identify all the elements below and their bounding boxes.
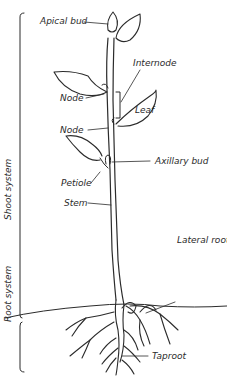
shoot-system-bracket (20, 13, 24, 318)
label-taproot: Taproot (152, 351, 186, 361)
apical-bud (108, 12, 118, 32)
label-root-system: Root system (3, 266, 13, 322)
label-apical-bud: Apical bud (40, 16, 87, 26)
root-system (66, 300, 178, 375)
label-lateral-root: Lateral root (177, 235, 227, 245)
petiole (100, 158, 108, 168)
plant-drawing (0, 0, 227, 380)
label-node-upper: Node (60, 93, 84, 103)
lower-left-leaf (66, 136, 102, 161)
leader-lateral-root (146, 302, 175, 313)
leader-apical-bud (84, 22, 108, 24)
root-system-bracket (20, 322, 24, 372)
upper-left-leaf (54, 72, 107, 96)
label-axillary-bud: Axillary bud (155, 156, 209, 166)
plant-diagram: Apical bud Internode Node Leaf Node Axil… (0, 0, 227, 380)
top-leaf (116, 14, 140, 42)
leader-internode (121, 70, 140, 102)
label-internode: Internode (133, 58, 177, 68)
leader-stem (88, 203, 111, 205)
label-petiole: Petiole (61, 178, 92, 188)
leader-petiole (91, 172, 100, 183)
label-shoot-system: Shoot system (3, 159, 13, 220)
label-leaf: Leaf (135, 105, 154, 115)
label-stem: Stem (64, 198, 88, 208)
internode-marker (116, 92, 120, 118)
label-node-lower: Node (60, 125, 84, 135)
leader-axillary-bud (112, 161, 150, 162)
leader-node-lower (88, 128, 108, 130)
